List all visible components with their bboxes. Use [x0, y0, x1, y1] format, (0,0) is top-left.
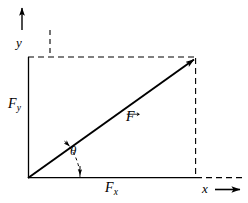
vector-symbol: F [126, 109, 135, 124]
vector-symbol-wrapper: F [126, 110, 135, 124]
x-axis-label: x [202, 182, 208, 195]
force-vector-arrow [28, 60, 194, 179]
component-x-label: Fx [105, 181, 118, 198]
force-vector-label: F [126, 110, 135, 124]
component-y-subscript: y [17, 103, 21, 113]
angle-arc-tick-upper [65, 141, 70, 146]
component-y-symbol: F [8, 96, 17, 111]
force-vector-diagram: y x Fy Fx F θ [0, 0, 248, 203]
component-x-subscript: x [114, 187, 118, 197]
component-y-label: Fy [8, 97, 21, 114]
angle-label: θ [70, 144, 76, 157]
component-x-symbol: F [105, 180, 114, 195]
diagram-canvas [0, 0, 248, 203]
y-axis-label: y [16, 36, 22, 49]
